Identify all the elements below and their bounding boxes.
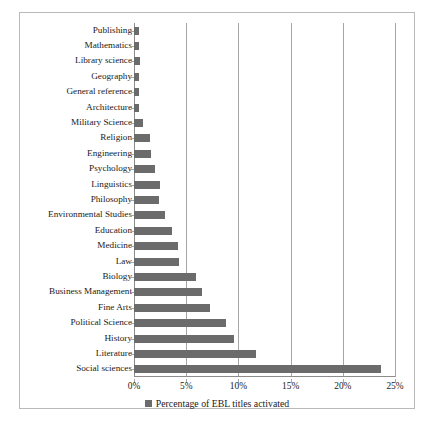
category-label: Biology <box>20 272 132 281</box>
category-label: Geography <box>20 72 132 81</box>
category-tick <box>131 138 134 139</box>
x-tick-label: 5% <box>180 381 193 391</box>
bar-row <box>134 273 395 281</box>
category-label: Architecture <box>20 103 132 112</box>
bar-series <box>134 23 395 377</box>
bar-row <box>134 258 395 266</box>
x-tick-label: 0% <box>128 381 141 391</box>
bar-row <box>134 165 395 173</box>
category-label: Literature <box>20 349 132 358</box>
bar-row <box>134 319 395 327</box>
category-label: Mathematics <box>20 41 132 50</box>
bar-row <box>134 211 395 219</box>
category-tick <box>131 92 134 93</box>
x-tick-label: 10% <box>230 381 247 391</box>
bar-row <box>134 27 395 35</box>
bar <box>134 119 143 127</box>
bar <box>134 258 179 266</box>
x-tick-label: 20% <box>334 381 351 391</box>
bar-row <box>134 150 395 158</box>
category-tick <box>131 262 134 263</box>
category-label: Law <box>20 257 132 266</box>
category-tick <box>131 369 134 370</box>
gridline-25pct <box>395 23 396 377</box>
plot-area <box>134 23 395 377</box>
bar-row <box>134 73 395 81</box>
bar <box>134 335 234 343</box>
bar <box>134 42 139 50</box>
bar-row <box>134 350 395 358</box>
category-label: Education <box>20 226 132 235</box>
category-label: Medicine <box>20 241 132 250</box>
category-tick <box>131 46 134 47</box>
legend-swatch-icon <box>145 400 152 407</box>
category-axis-labels: PublishingMathematicsLibrary scienceGeog… <box>20 23 132 377</box>
bar <box>134 242 178 250</box>
bar-row <box>134 288 395 296</box>
chart-legend: Percentage of EBL titles activated <box>20 398 414 409</box>
category-label: History <box>20 334 132 343</box>
figure: PublishingMathematicsLibrary scienceGeog… <box>0 0 432 433</box>
bar-row <box>134 227 395 235</box>
category-label: General reference <box>20 87 132 96</box>
bar-row <box>134 88 395 96</box>
x-tick-label: 25% <box>386 381 403 391</box>
bar <box>134 104 139 112</box>
category-label: Business Management <box>20 287 132 296</box>
legend-label: Percentage of EBL titles activated <box>156 398 289 409</box>
category-label: Publishing <box>20 26 132 35</box>
category-label: Environmental Studies <box>20 210 132 219</box>
bar-row <box>134 304 395 312</box>
category-tick <box>131 277 134 278</box>
category-tick <box>131 215 134 216</box>
bar <box>134 273 196 281</box>
category-tick <box>131 77 134 78</box>
category-tick <box>131 231 134 232</box>
bar-row <box>134 57 395 65</box>
category-tick <box>131 354 134 355</box>
bar-row <box>134 119 395 127</box>
category-tick <box>131 200 134 201</box>
bar <box>134 134 150 142</box>
chart-frame: PublishingMathematicsLibrary scienceGeog… <box>19 12 415 409</box>
bar-row <box>134 134 395 142</box>
bar-row <box>134 335 395 343</box>
category-label: Library science <box>20 56 132 65</box>
bar-row <box>134 365 395 373</box>
x-axis-tick-labels: 0%5%10%15%20%25% <box>134 379 395 395</box>
category-tick <box>131 308 134 309</box>
bar-row <box>134 104 395 112</box>
category-label: Military Science <box>20 118 132 127</box>
category-tick <box>131 31 134 32</box>
bar <box>134 57 140 65</box>
x-tick-label: 15% <box>282 381 299 391</box>
bar <box>134 165 155 173</box>
category-tick <box>131 339 134 340</box>
category-tick <box>131 169 134 170</box>
category-label: Religion <box>20 133 132 142</box>
bar <box>134 319 226 327</box>
bar <box>134 150 151 158</box>
bar <box>134 88 139 96</box>
bar <box>134 227 172 235</box>
category-tick <box>131 323 134 324</box>
bar <box>134 181 160 189</box>
category-label: Engineering <box>20 149 132 158</box>
bar-row <box>134 181 395 189</box>
bar-row <box>134 196 395 204</box>
category-tick <box>131 246 134 247</box>
category-label: Linguistics <box>20 180 132 189</box>
category-tick <box>131 185 134 186</box>
bar <box>134 288 202 296</box>
category-label: Social sciences <box>20 364 132 373</box>
bar <box>134 73 139 81</box>
category-label: Fine Arts <box>20 303 132 312</box>
bar-row <box>134 242 395 250</box>
bar <box>134 211 165 219</box>
bar <box>134 196 159 204</box>
category-label: Psychology <box>20 164 132 173</box>
x-axis-line <box>134 376 395 377</box>
category-tick <box>131 123 134 124</box>
category-label: Political Science <box>20 318 132 327</box>
bar <box>134 365 381 373</box>
